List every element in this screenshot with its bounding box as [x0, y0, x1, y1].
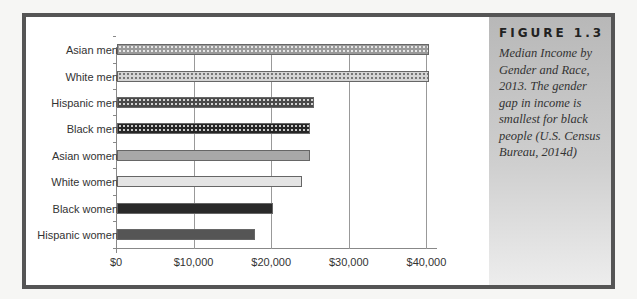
category-label: White women — [51, 176, 118, 188]
bar — [117, 97, 314, 108]
bar-chart: $0$10,000$20,000$30,000$40,000Asian menW… — [26, 17, 489, 285]
bar — [117, 71, 429, 82]
bar — [117, 176, 302, 187]
y-tick — [113, 89, 116, 90]
category-label: Black women — [53, 203, 118, 215]
y-tick — [113, 248, 116, 249]
y-tick — [113, 115, 116, 116]
y-tick — [113, 195, 116, 196]
bar — [117, 229, 255, 240]
y-tick — [113, 63, 116, 64]
bar — [117, 123, 310, 134]
category-label: Hispanic women — [37, 229, 118, 241]
x-tick-label: $10,000 — [174, 256, 214, 268]
y-tick — [113, 168, 116, 169]
figure-caption: Median Income by Gender and Race, 2013. … — [499, 45, 607, 161]
category-label: Black men — [67, 123, 118, 135]
bar — [117, 44, 429, 55]
bar — [117, 150, 310, 161]
y-tick — [113, 36, 116, 37]
figure-label: FIGURE 1.3 — [499, 26, 604, 40]
x-tick-label: $0 — [110, 256, 122, 268]
x-tick-label: $20,000 — [251, 256, 291, 268]
category-label: Hispanic men — [51, 97, 118, 109]
category-label: White men — [65, 71, 118, 83]
figure-frame: $0$10,000$20,000$30,000$40,000Asian menW… — [22, 13, 615, 289]
x-axis — [116, 248, 437, 249]
y-tick — [113, 142, 116, 143]
y-tick — [113, 221, 116, 222]
category-label: Asian men — [66, 44, 118, 56]
x-tick-label: $30,000 — [329, 256, 369, 268]
x-tick-label: $40,000 — [407, 256, 447, 268]
bar — [117, 203, 273, 214]
category-label: Asian women — [52, 150, 118, 162]
caption-panel: FIGURE 1.3 Median Income by Gender and R… — [489, 17, 611, 285]
